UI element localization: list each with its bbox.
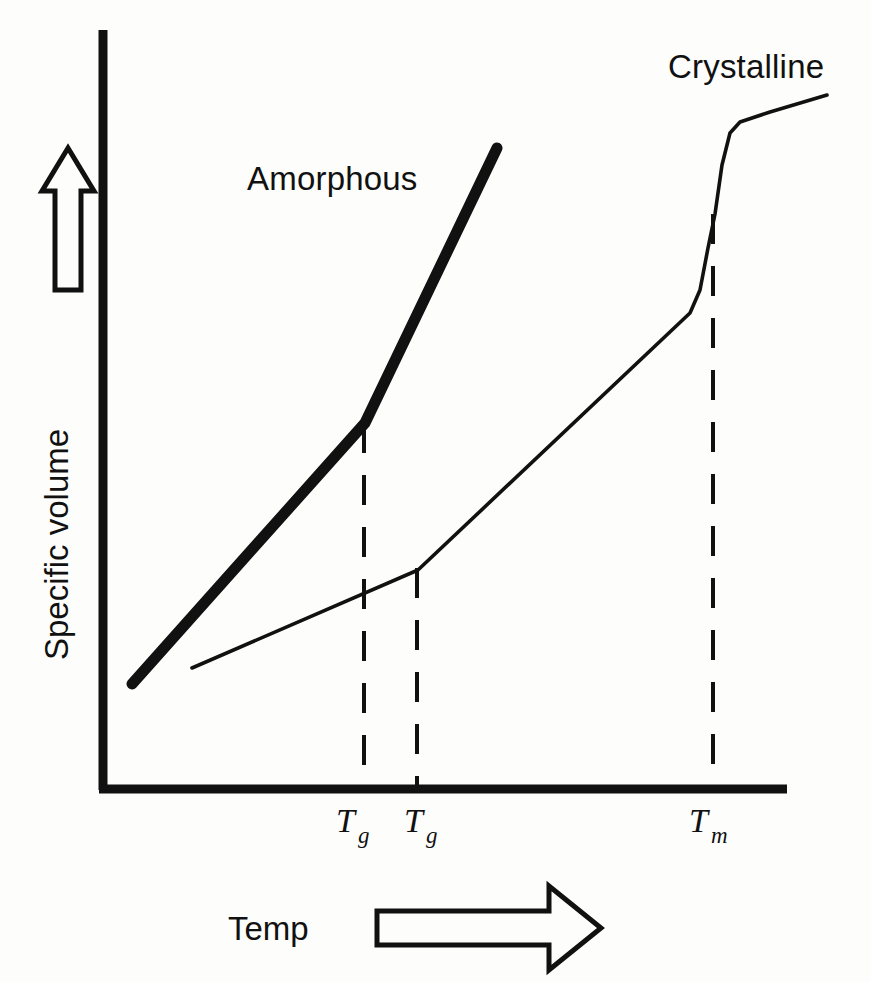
amorphous-label: Amorphous — [247, 160, 418, 197]
tg-crystalline-subscript: g — [426, 823, 438, 848]
y-axis-title: Specific volume — [38, 429, 75, 660]
tm-subscript: m — [711, 823, 728, 848]
right-arrow-icon — [377, 886, 601, 970]
x-axis-tick-label-tg-amorphous: T g — [336, 802, 370, 848]
x-axis-tick-label-tg-crystalline: T g — [404, 802, 438, 848]
crystalline-label: Crystalline — [668, 48, 824, 85]
tg-amorphous-subscript: g — [358, 823, 370, 848]
x-axis-tick-label-tm: T m — [689, 802, 728, 848]
specific-volume-vs-temperature-chart: Amorphous Crystalline T g T g T m Specif… — [0, 0, 871, 982]
amorphous-curve — [132, 148, 497, 684]
x-axis-title: Temp — [228, 910, 309, 947]
figure-container: Amorphous Crystalline T g T g T m Specif… — [0, 0, 871, 982]
tg-crystalline-base: T — [404, 802, 425, 839]
tm-base: T — [689, 802, 710, 839]
up-arrow-icon — [42, 148, 94, 290]
tg-amorphous-base: T — [336, 802, 357, 839]
